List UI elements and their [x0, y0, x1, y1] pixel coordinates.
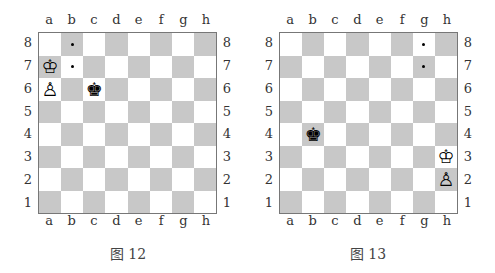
square-a8: [280, 33, 302, 56]
square-h4: [435, 123, 457, 146]
square-b5: [302, 101, 324, 124]
diagram-13: ♚♔♙ 图 13: [0, 0, 247, 273]
rank-label-8: 8: [22, 35, 34, 50]
square-f2: [391, 168, 413, 191]
square-b3: [302, 146, 324, 169]
square-h5: [435, 101, 457, 124]
rank-label-6: 6: [462, 81, 474, 96]
square-f3: [391, 146, 413, 169]
square-d5: [346, 101, 368, 124]
square-a5: [280, 101, 302, 124]
rank-label-5: 5: [221, 104, 233, 119]
square-h2: ♙: [435, 168, 457, 191]
rank-label-1: 1: [22, 195, 34, 210]
rank-label-7: 7: [221, 58, 233, 73]
square-a2: [280, 168, 302, 191]
move-marker-dot-icon: [422, 43, 425, 46]
rank-label-6: 6: [263, 81, 275, 96]
rank-label-1: 1: [462, 195, 474, 210]
file-label-b: b: [61, 12, 83, 27]
square-h6: [435, 78, 457, 101]
file-label-c: c: [324, 213, 346, 228]
square-g4: [413, 123, 435, 146]
file-label-d: d: [346, 12, 368, 27]
square-g5: [413, 101, 435, 124]
file-label-c: c: [83, 12, 105, 27]
square-c6: [324, 78, 346, 101]
rank-label-6: 6: [22, 81, 34, 96]
square-c7: [324, 56, 346, 79]
square-a7: [280, 56, 302, 79]
rank-label-2: 2: [221, 172, 233, 187]
white-king-icon: ♔: [437, 147, 454, 166]
square-e8: [369, 33, 391, 56]
file-label-h: h: [436, 12, 458, 27]
file-label-d: d: [105, 213, 127, 228]
move-marker-dot-icon: [422, 65, 425, 68]
file-label-d: d: [346, 213, 368, 228]
black-king-icon: ♚: [305, 125, 322, 144]
rank-label-8: 8: [221, 35, 233, 50]
square-a4: [280, 123, 302, 146]
square-d2: [346, 168, 368, 191]
file-label-h: h: [195, 12, 217, 27]
file-label-b: b: [302, 213, 324, 228]
rank-label-5: 5: [462, 104, 474, 119]
square-f8: [391, 33, 413, 56]
rank-label-3: 3: [263, 149, 275, 164]
file-label-f: f: [391, 12, 413, 27]
rank-label-3: 3: [221, 149, 233, 164]
file-label-h: h: [195, 213, 217, 228]
chessboard: ♚♔♙: [279, 32, 458, 214]
figure-caption: 图 13: [318, 243, 418, 263]
file-label-a: a: [279, 213, 301, 228]
file-label-c: c: [324, 12, 346, 27]
file-label-h: h: [436, 213, 458, 228]
file-label-f: f: [391, 213, 413, 228]
square-a1: [280, 191, 302, 214]
square-g2: [413, 168, 435, 191]
square-b7: [302, 56, 324, 79]
file-label-f: f: [150, 213, 172, 228]
rank-label-5: 5: [263, 104, 275, 119]
rank-label-3: 3: [22, 149, 34, 164]
file-label-b: b: [302, 12, 324, 27]
square-h7: [435, 56, 457, 79]
rank-label-4: 4: [263, 126, 275, 141]
square-e4: [369, 123, 391, 146]
file-label-g: g: [413, 213, 435, 228]
rank-label-4: 4: [462, 126, 474, 141]
square-g3: [413, 146, 435, 169]
file-label-a: a: [38, 213, 60, 228]
file-label-g: g: [172, 12, 194, 27]
square-d4: [346, 123, 368, 146]
rank-label-6: 6: [221, 81, 233, 96]
file-label-g: g: [413, 12, 435, 27]
square-c4: [324, 123, 346, 146]
square-f1: [391, 191, 413, 214]
square-h3: ♔: [435, 146, 457, 169]
file-label-d: d: [105, 12, 127, 27]
rank-label-4: 4: [22, 126, 34, 141]
square-f4: [391, 123, 413, 146]
square-d7: [346, 56, 368, 79]
square-e6: [369, 78, 391, 101]
square-g7: [413, 56, 435, 79]
square-a6: [280, 78, 302, 101]
square-e3: [369, 146, 391, 169]
file-label-b: b: [61, 213, 83, 228]
file-label-a: a: [38, 12, 60, 27]
file-label-e: e: [128, 12, 150, 27]
square-e1: [369, 191, 391, 214]
square-d1: [346, 191, 368, 214]
square-c8: [324, 33, 346, 56]
rank-label-4: 4: [221, 126, 233, 141]
rank-label-2: 2: [263, 172, 275, 187]
square-g1: [413, 191, 435, 214]
rank-label-2: 2: [22, 172, 34, 187]
square-a3: [280, 146, 302, 169]
file-label-c: c: [83, 213, 105, 228]
rank-label-3: 3: [462, 149, 474, 164]
square-c1: [324, 191, 346, 214]
file-label-g: g: [172, 213, 194, 228]
